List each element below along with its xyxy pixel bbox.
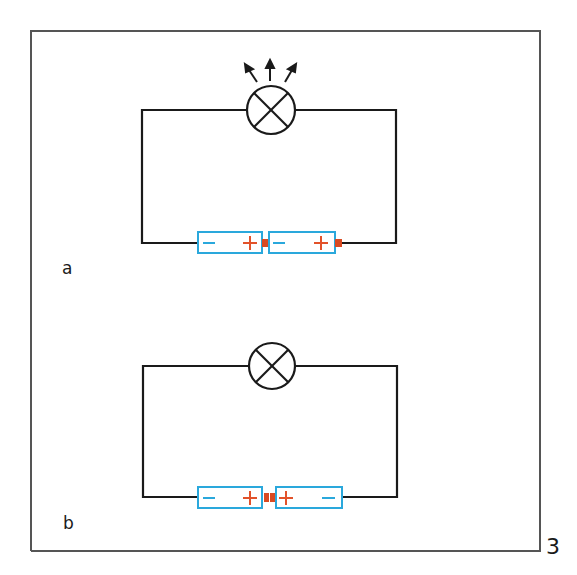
battery-terminal (262, 239, 268, 247)
wire-b (143, 366, 397, 497)
battery-terminal (335, 239, 342, 247)
circuit-a-label: a (62, 258, 72, 278)
battery-b2 (270, 487, 342, 508)
wire-a (142, 110, 396, 243)
battery-a2 (269, 232, 342, 253)
figure-number: 3 (546, 534, 560, 559)
circuit-diagram-figure (0, 0, 577, 575)
circuit-b (143, 343, 397, 508)
circuit-a (142, 60, 396, 253)
battery-a1 (198, 232, 268, 253)
lamp-icon (249, 343, 295, 389)
battery-terminal (270, 493, 275, 502)
battery-b1 (198, 487, 269, 508)
battery-terminal (264, 493, 269, 502)
circuit-b-label: b (63, 513, 74, 533)
figure-frame (31, 31, 540, 551)
lamp-icon (247, 86, 295, 134)
light-rays-icon (245, 60, 296, 82)
